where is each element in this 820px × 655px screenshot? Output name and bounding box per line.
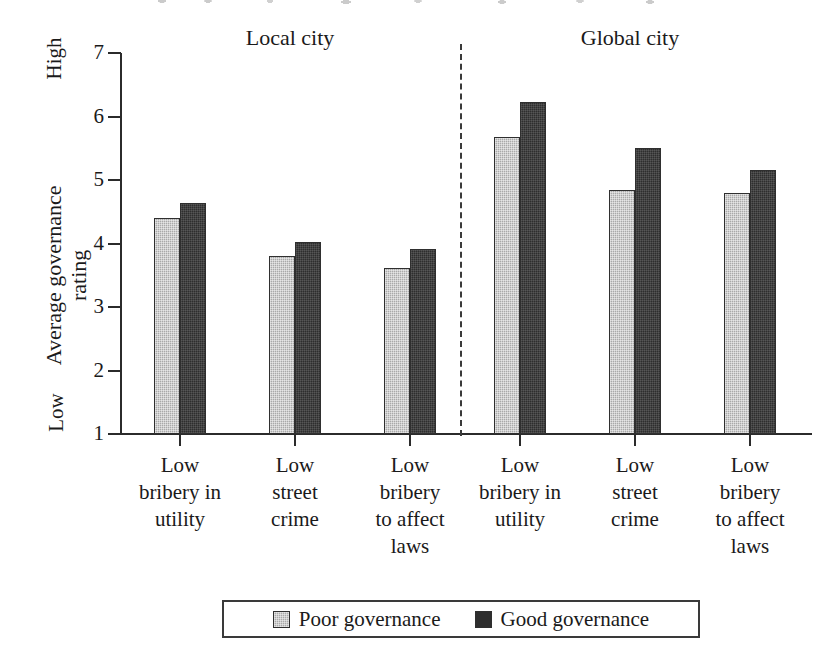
y-tick-4 bbox=[108, 243, 121, 245]
legend-label-good-governance: Good governance bbox=[501, 609, 650, 630]
x-tick-g1 bbox=[179, 434, 181, 446]
x-category-label-g2: Low street crime bbox=[235, 452, 355, 533]
x-category-label-g3: Low bribery to affect laws bbox=[350, 452, 470, 560]
legend-label-poor-governance: Poor governance bbox=[299, 609, 441, 630]
x-tick-g6 bbox=[749, 434, 751, 446]
x-axis-line bbox=[120, 433, 812, 435]
bar-poor-g4[interactable] bbox=[494, 137, 520, 434]
y-axis-title: Average governance rating bbox=[41, 125, 92, 425]
bar-good-g6[interactable] bbox=[750, 170, 776, 434]
x-category-label-g6: Low bribery to affect laws bbox=[690, 452, 810, 560]
chart-page: Local city Global city 7654321 Average g… bbox=[0, 0, 820, 655]
bar-poor-g1[interactable] bbox=[154, 218, 180, 434]
bar-good-g5[interactable] bbox=[635, 148, 661, 434]
y-tick-2 bbox=[108, 370, 121, 372]
x-category-label-g4: Low bribery in utility bbox=[460, 452, 580, 533]
bar-poor-g6[interactable] bbox=[724, 193, 750, 434]
y-tick-label-slot: 6 bbox=[52, 106, 104, 128]
y-tick-7 bbox=[108, 52, 121, 54]
legend: Poor governance Good governance bbox=[222, 600, 700, 638]
x-category-label-g5: Low street crime bbox=[575, 452, 695, 533]
y-tick-label-1: 1 bbox=[64, 423, 104, 444]
y-tick-6 bbox=[108, 116, 121, 118]
y-axis-high-label: High bbox=[44, 29, 65, 89]
x-category-label-g1: Low bribery in utility bbox=[120, 452, 240, 533]
x-tick-g5 bbox=[634, 434, 636, 446]
panel-header-global-city: Global city bbox=[520, 27, 740, 49]
bar-good-g3[interactable] bbox=[410, 249, 436, 434]
bar-good-g4[interactable] bbox=[520, 102, 546, 434]
y-axis-low-label: Low bbox=[46, 383, 67, 443]
bar-good-g2[interactable] bbox=[295, 242, 321, 434]
y-tick-label-6: 6 bbox=[64, 106, 104, 127]
y-tick-1 bbox=[108, 433, 121, 435]
legend-swatch-good-icon bbox=[475, 611, 492, 628]
panel-divider-dashed bbox=[460, 44, 462, 436]
x-tick-g2 bbox=[294, 434, 296, 446]
bar-good-g1[interactable] bbox=[180, 203, 206, 434]
y-tick-3 bbox=[108, 306, 121, 308]
panel-header-local-city: Local city bbox=[180, 27, 400, 49]
x-tick-g3 bbox=[409, 434, 411, 446]
legend-item-poor-governance[interactable]: Poor governance bbox=[273, 609, 441, 630]
bar-chart: Local city Global city 7654321 Average g… bbox=[0, 0, 820, 655]
y-tick-label-7: 7 bbox=[64, 42, 104, 63]
y-tick-5 bbox=[108, 179, 121, 181]
bar-poor-g5[interactable] bbox=[609, 190, 635, 434]
bar-poor-g3[interactable] bbox=[384, 268, 410, 434]
legend-item-good-governance[interactable]: Good governance bbox=[475, 609, 650, 630]
legend-swatch-poor-icon bbox=[273, 611, 290, 628]
x-tick-g4 bbox=[519, 434, 521, 446]
bar-poor-g2[interactable] bbox=[269, 256, 295, 434]
